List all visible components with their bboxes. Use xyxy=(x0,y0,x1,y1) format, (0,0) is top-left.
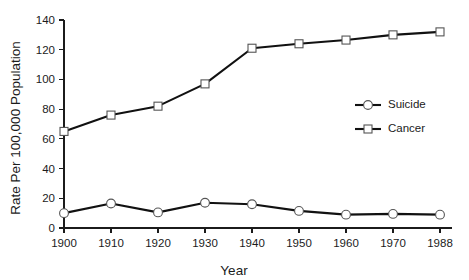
data-point-suicide-1950 xyxy=(295,207,304,216)
y-tick-label: 0 xyxy=(49,222,55,234)
data-point-suicide-1930 xyxy=(201,198,210,207)
x-tick-label: 1930 xyxy=(192,237,218,249)
y-tick-label: 40 xyxy=(42,163,55,175)
data-point-cancer-1960 xyxy=(342,36,350,44)
chart-container: 020406080100120140 190019101920193019401… xyxy=(0,0,469,280)
x-axis-title: Year xyxy=(220,263,248,278)
x-tick-label: 1960 xyxy=(333,237,359,249)
legend-marker-suicide xyxy=(364,101,373,110)
y-tick-label: 140 xyxy=(36,14,55,26)
y-tick-label: 100 xyxy=(36,73,55,85)
x-tick-label: 1900 xyxy=(51,237,77,249)
data-point-cancer-1930 xyxy=(201,80,209,88)
x-axis: 190019101920193019401950196019701988 xyxy=(51,228,453,249)
data-point-cancer-1900 xyxy=(60,127,68,135)
x-tick-label: 1920 xyxy=(145,237,171,249)
data-point-cancer-1910 xyxy=(107,111,115,119)
data-point-suicide-1920 xyxy=(154,208,163,217)
legend-label-suicide: Suicide xyxy=(388,98,426,110)
data-point-cancer-1950 xyxy=(295,40,303,48)
legend-marker-cancer xyxy=(364,125,372,133)
data-point-suicide-1988 xyxy=(436,210,445,219)
data-point-suicide-1910 xyxy=(107,199,116,208)
line-chart: 020406080100120140 190019101920193019401… xyxy=(0,0,469,280)
data-point-cancer-1988 xyxy=(436,28,444,36)
y-tick-label: 20 xyxy=(42,192,55,204)
data-point-suicide-1940 xyxy=(248,200,257,209)
data-point-suicide-1960 xyxy=(342,210,351,219)
x-tick-label: 1940 xyxy=(239,237,265,249)
x-tick-label: 1988 xyxy=(427,237,453,249)
x-tick-label: 1950 xyxy=(286,237,312,249)
data-point-suicide-1970 xyxy=(389,209,398,218)
x-tick-label: 1910 xyxy=(98,237,124,249)
data-point-suicide-1900 xyxy=(60,209,69,218)
data-point-cancer-1920 xyxy=(154,102,162,110)
legend-label-cancer: Cancer xyxy=(388,122,425,134)
y-axis-title: Rate Per 100,000 Population xyxy=(8,41,23,214)
x-tick-label: 1970 xyxy=(380,237,406,249)
y-tick-label: 80 xyxy=(42,103,55,115)
y-tick-label: 120 xyxy=(36,44,55,56)
data-point-cancer-1970 xyxy=(389,31,397,39)
y-tick-label: 60 xyxy=(42,133,55,145)
data-point-cancer-1940 xyxy=(248,44,256,52)
